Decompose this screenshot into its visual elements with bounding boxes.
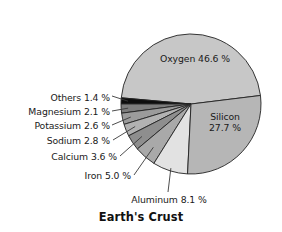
callout-label-magnesium: Magnesium 2.1 % (0, 106, 110, 117)
callout-label-calcium-text: Calcium 3.6 % (51, 151, 117, 162)
callout-label-calcium: Calcium 3.6 % (0, 151, 117, 162)
callout-label-sodium-text: Sodium 2.8 % (47, 135, 110, 146)
callout-label-iron-text: Iron 5.0 % (85, 170, 131, 181)
callout-label-others-text: Others 1.4 % (50, 92, 110, 103)
slice-label-silicon: Silicon 27.7 % (197, 112, 253, 133)
callout-label-potassium: Potassium 2.6 % (0, 120, 110, 131)
pie-chart-figure: Oxygen 46.6 % Silicon 27.7 % Others 1.4 … (0, 0, 282, 232)
slice-label-silicon-name: Silicon (197, 112, 253, 123)
pie-slice-silicon (188, 95, 261, 174)
callout-label-aluminum-text: Aluminum 8.1 % (131, 194, 206, 205)
callout-label-aluminum: Aluminum 8.1 % (124, 194, 214, 205)
callout-label-magnesium-text: Magnesium 2.1 % (28, 106, 110, 117)
callout-label-sodium: Sodium 2.8 % (0, 135, 110, 146)
callout-label-potassium-text: Potassium 2.6 % (34, 120, 110, 131)
pie-slice-oxygen (121, 34, 260, 104)
slice-label-oxygen-text: Oxygen 46.6 % (160, 53, 230, 64)
callout-label-others: Others 1.4 % (0, 92, 110, 103)
slice-label-silicon-value: 27.7 % (197, 123, 253, 134)
callout-label-iron: Iron 5.0 % (0, 170, 131, 181)
leader-line-aluminum (168, 168, 171, 192)
slice-label-oxygen: Oxygen 46.6 % (148, 54, 242, 65)
chart-title: Earth's Crust (0, 210, 282, 224)
